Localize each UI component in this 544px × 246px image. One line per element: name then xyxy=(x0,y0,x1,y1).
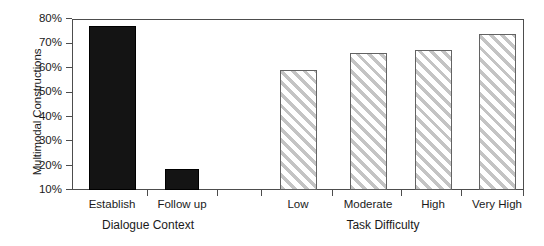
bar-low xyxy=(280,70,317,190)
x-tick-mark xyxy=(523,190,524,196)
group-label-dialogue-context: Dialogue Context xyxy=(102,219,194,231)
bar-very-high xyxy=(479,34,516,190)
x-tick-mark xyxy=(147,190,148,196)
y-tick-label: 70% xyxy=(18,37,62,49)
x-tick-mark xyxy=(332,190,333,196)
bar-establish xyxy=(89,26,136,190)
x-label-low: Low xyxy=(287,199,308,211)
bar-high xyxy=(415,50,452,190)
y-tick-label: 40% xyxy=(18,111,62,123)
x-label-follow-up: Follow up xyxy=(157,199,206,211)
x-tick-mark xyxy=(461,190,462,196)
x-label-very-high: Very High xyxy=(472,199,522,211)
bar-follow-up xyxy=(165,169,199,190)
x-label-high: High xyxy=(421,199,445,211)
y-tick-label: 50% xyxy=(18,86,62,98)
y-tick-label: 60% xyxy=(18,62,62,74)
x-tick-mark xyxy=(401,190,402,196)
group-label-task-difficulty: Task Difficulty xyxy=(346,219,419,231)
y-tick-label: 30% xyxy=(18,135,62,147)
x-label-establish: Establish xyxy=(89,199,136,211)
x-tick-mark xyxy=(217,190,218,196)
y-tick-label: 10% xyxy=(18,184,62,196)
bar-moderate xyxy=(350,53,387,190)
bar-chart: Multimodal Constructions 80%70%60%50%40%… xyxy=(0,0,544,246)
bars-layer xyxy=(72,19,524,190)
x-label-moderate: Moderate xyxy=(344,199,393,211)
x-tick-mark xyxy=(261,190,262,196)
y-tick-label: 80% xyxy=(18,13,62,25)
y-tick-label: 20% xyxy=(18,160,62,172)
